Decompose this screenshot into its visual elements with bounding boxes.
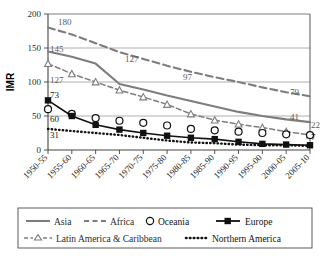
marker-square-europe-11 <box>307 142 313 148</box>
xtick-label-7: 1985-90 <box>188 152 217 181</box>
data-label-79-8: 79 <box>290 87 300 97</box>
data-label-22-10: 22 <box>311 120 320 130</box>
marker-circle-oceania-9 <box>259 130 266 137</box>
data-label-127-2: 127 <box>50 75 64 85</box>
marker-circle-oceania-8 <box>235 128 242 135</box>
xtick-label-10: 2000-05 <box>259 152 288 181</box>
legend-label-latin-america: Latin America & Caribbean <box>56 234 162 244</box>
legend-marker-oceania <box>146 217 153 224</box>
data-label-73-3: 73 <box>50 90 60 100</box>
chart-canvas: 050100150200IMR1950-551955-601960-651965… <box>0 0 329 264</box>
marker-circle-oceania-4 <box>140 119 147 126</box>
marker-triangle-lac-1 <box>68 70 75 76</box>
legend-label-europe: Europe <box>245 217 272 227</box>
marker-circle-oceania-0 <box>45 106 52 113</box>
series-line-asia <box>48 51 310 122</box>
y-axis-title: IMR <box>5 72 16 91</box>
marker-circle-oceania-7 <box>211 127 218 134</box>
marker-circle-oceania-10 <box>283 131 290 138</box>
ytick-label-50: 50 <box>32 111 42 121</box>
marker-square-europe-4 <box>140 130 146 136</box>
marker-circle-oceania-2 <box>92 115 99 122</box>
ytick-label-100: 100 <box>28 77 42 87</box>
xtick-label-2: 1960-65 <box>69 152 98 181</box>
data-label-31-5: 31 <box>50 130 59 140</box>
xtick-label-0: 1950-55 <box>21 152 50 181</box>
marker-circle-oceania-6 <box>187 125 194 132</box>
xtick-label-1: 1955-60 <box>45 152 74 181</box>
marker-square-europe-7 <box>212 136 218 142</box>
data-label-97-7: 97 <box>183 72 193 82</box>
xtick-label-11: 2005-10 <box>283 152 312 181</box>
marker-square-europe-8 <box>235 139 241 145</box>
data-label-145-1: 145 <box>50 44 64 54</box>
marker-square-europe-10 <box>283 141 289 147</box>
marker-square-europe-3 <box>116 126 122 132</box>
legend-label-asia: Asia <box>54 217 72 227</box>
ytick-label-200: 200 <box>28 9 42 19</box>
xtick-label-5: 1975-80 <box>140 152 169 181</box>
marker-square-europe-6 <box>188 135 194 141</box>
xtick-label-4: 1970-75 <box>116 152 145 181</box>
data-label-180-0: 180 <box>58 17 72 27</box>
marker-square-europe-9 <box>259 141 265 147</box>
data-label-60-4: 60 <box>50 114 60 124</box>
marker-circle-oceania-3 <box>116 117 123 124</box>
data-label-127-6: 127 <box>125 54 139 64</box>
data-label-7-11: 7 <box>311 132 316 142</box>
data-label-41-9: 41 <box>290 112 299 122</box>
legend-marker-europe-square <box>225 218 231 224</box>
marker-square-europe-5 <box>164 133 170 139</box>
marker-circle-oceania-5 <box>164 122 171 129</box>
marker-triangle-lac-0 <box>45 60 52 66</box>
xtick-label-6: 1980-85 <box>164 152 193 181</box>
legend-label-africa: Africa <box>110 217 135 227</box>
imr-line-chart: 050100150200IMR1950-551955-601960-651965… <box>0 0 329 264</box>
marker-square-europe-1 <box>69 113 75 119</box>
ytick-label-150: 150 <box>28 43 42 53</box>
marker-square-europe-2 <box>92 122 98 128</box>
xtick-label-8: 1990-95 <box>212 152 241 181</box>
legend-label-oceania: Oceania <box>158 217 190 227</box>
xtick-label-9: 1995-00 <box>235 152 264 181</box>
xtick-label-3: 1965-70 <box>93 152 122 181</box>
series-line-europe <box>48 100 310 145</box>
legend-label-northern-america: Northern America <box>212 234 282 244</box>
